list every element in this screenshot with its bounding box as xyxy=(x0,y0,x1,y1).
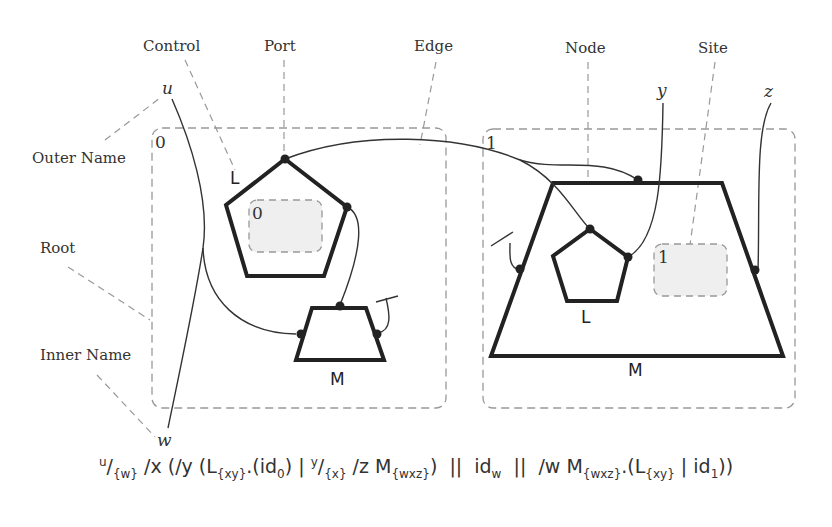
formula-part: 0 xyxy=(277,467,285,481)
edge-link-L-to-L xyxy=(285,139,590,229)
formula-part: ) || id xyxy=(430,455,492,477)
formula-part: .(L xyxy=(621,455,645,477)
root-leader xyxy=(68,267,150,320)
root-label: Root xyxy=(40,239,75,257)
control-L-left: L xyxy=(230,168,240,188)
formula-part: {xy} xyxy=(645,467,674,481)
control-label: Control xyxy=(143,37,200,55)
outer-name-leader xyxy=(105,98,160,140)
site-index-0: 0 xyxy=(252,203,263,223)
formula-part: {xy} xyxy=(217,467,246,481)
closed-link-right-M xyxy=(491,232,520,270)
port-icon xyxy=(586,225,595,234)
formula-part: /z M xyxy=(347,455,392,477)
formula-part: ) | xyxy=(285,455,311,477)
port-icon xyxy=(343,203,352,212)
formula-part: y xyxy=(311,455,318,469)
port-icon xyxy=(634,176,643,185)
edge-label: Edge xyxy=(414,37,453,55)
site-leader xyxy=(690,62,715,245)
formula-part: {x} xyxy=(324,467,346,481)
control-M-left: M xyxy=(330,369,345,389)
port-icon xyxy=(751,266,760,275)
formula-part: | id xyxy=(675,455,711,477)
formula-part: .(id xyxy=(246,455,277,477)
port-icon xyxy=(624,253,633,262)
control-M-right: M xyxy=(628,360,643,380)
port-label: Port xyxy=(264,37,296,55)
port-icon xyxy=(516,265,525,274)
node-M-right xyxy=(491,183,783,356)
closed-link-left-M xyxy=(376,296,398,333)
link-y xyxy=(628,103,663,257)
control-L-right: L xyxy=(581,307,591,327)
inner-name-label: Inner Name xyxy=(40,346,131,364)
port-icon xyxy=(336,302,345,311)
site-index-1: 1 xyxy=(658,247,669,267)
formula-part: {w} xyxy=(113,467,138,481)
outer-name-u: u xyxy=(162,78,173,98)
outer-name-y: y xyxy=(656,80,667,100)
formula-part: || /w M xyxy=(501,455,582,477)
port-icon xyxy=(373,330,382,339)
bigraph-term-formula: u/{w} /x (/y (L{xy}.(id0) | y/{x} /z M{w… xyxy=(0,455,832,481)
formula-part: )) xyxy=(718,455,733,477)
formula-part: /x (/y (L xyxy=(138,455,217,477)
formula-part: u xyxy=(99,455,107,469)
port-icon xyxy=(297,330,306,339)
formula-part: {wxz} xyxy=(391,467,429,481)
node-M-left xyxy=(296,308,384,360)
inner-name-w: w xyxy=(157,430,172,450)
port-icon xyxy=(281,155,290,164)
formula-part: {wxz} xyxy=(583,467,621,481)
formula-part: w xyxy=(492,467,502,481)
outer-name-label: Outer Name xyxy=(32,149,126,167)
node-label: Node xyxy=(565,39,606,57)
node-L-right xyxy=(553,229,628,301)
root-index-0: 0 xyxy=(155,132,166,152)
edge-leader xyxy=(420,62,436,145)
link-w-inner xyxy=(168,248,203,428)
inner-name-leader xyxy=(97,375,155,437)
outer-name-z: z xyxy=(763,81,774,101)
bigraph-diagram: Control Port Edge Node Site Outer Name R… xyxy=(0,0,832,527)
site-label: Site xyxy=(698,39,728,57)
